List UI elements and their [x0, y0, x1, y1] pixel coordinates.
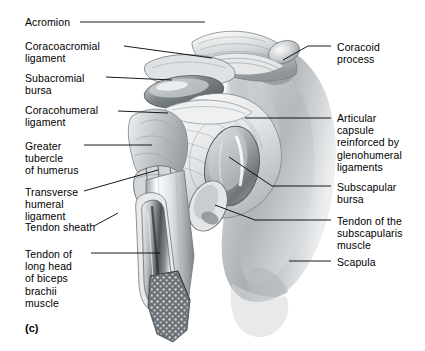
label-coracohumeral-ligament: Coracohumeral ligament	[25, 104, 98, 128]
label-articular-capsule: Articular capsule reinforced by glenohum…	[337, 112, 402, 173]
label-subscapular-bursa: Subscapular bursa	[337, 181, 396, 205]
panel-label: (c)	[25, 322, 38, 334]
label-tendon-subscapularis: Tendon of the subscapularis muscle	[337, 215, 403, 252]
label-scapula: Scapula	[337, 256, 376, 268]
label-subacromial-bursa: Subacromial bursa	[25, 72, 84, 96]
figure-shoulder-joint: Acromion Coracoacromial ligament Subacro…	[0, 0, 425, 351]
label-tendon-sheath: Tendon sheath	[25, 221, 95, 233]
label-acromion: Acromion	[25, 16, 70, 28]
leader-tendon-sheath	[94, 213, 118, 226]
label-greater-tubercle: Greater tubercle of humerus	[25, 140, 79, 177]
label-coracoid-process: Coracoid process	[337, 41, 380, 65]
label-coracoacromial-ligament: Coracoacromial ligament	[25, 40, 100, 64]
label-transverse-humeral-ligament: Transverse humeral ligament	[25, 186, 78, 223]
label-tendon-long-head-biceps: Tendon of long head of biceps brachii mu…	[25, 248, 72, 309]
